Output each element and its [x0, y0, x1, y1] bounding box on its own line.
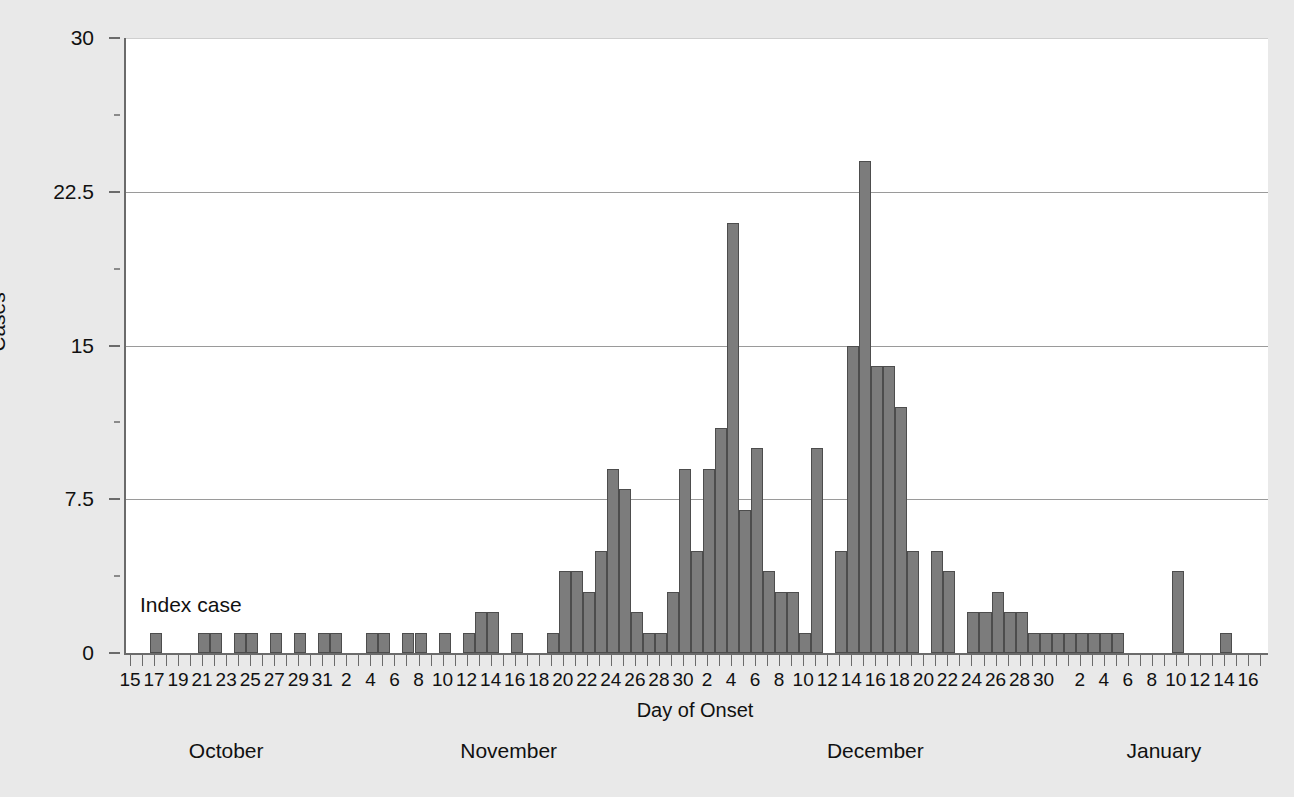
- x-tick-mark: [1032, 655, 1033, 666]
- bar: [1040, 633, 1052, 654]
- x-tick-label: 12: [1189, 669, 1210, 691]
- x-tick-label: 14: [841, 669, 862, 691]
- bar: [739, 510, 751, 654]
- bar: [871, 366, 883, 653]
- x-tick-label: 16: [504, 669, 525, 691]
- x-tick-label: 30: [1033, 669, 1054, 691]
- x-tick-mark: [382, 655, 383, 666]
- x-tick-mark: [731, 655, 732, 666]
- bar: [835, 551, 847, 654]
- x-tick-label: 10: [432, 669, 453, 691]
- x-tick-mark: [358, 655, 359, 666]
- x-tick-label: 6: [750, 669, 761, 691]
- y-tick-mark: [109, 652, 120, 654]
- bar: [571, 571, 583, 653]
- bar: [895, 407, 907, 653]
- x-tick-mark: [298, 655, 299, 666]
- x-tick-label: 22: [937, 669, 958, 691]
- y-tick-mark: [109, 345, 120, 347]
- y-tick-minor-mark: [114, 114, 120, 116]
- x-tick-label: 18: [889, 669, 910, 691]
- month-label: November: [460, 739, 557, 763]
- x-tick-label: 16: [865, 669, 886, 691]
- bar: [378, 633, 390, 654]
- x-tick-mark: [875, 655, 876, 666]
- x-tick-mark: [1176, 655, 1177, 666]
- x-tick-mark: [599, 655, 600, 666]
- x-tick-mark: [322, 655, 323, 666]
- x-tick-mark: [1092, 655, 1093, 666]
- x-tick-mark: [887, 655, 888, 666]
- x-tick-mark: [370, 655, 371, 666]
- bar: [487, 612, 499, 653]
- epidemic-curve-figure: 07.51522.530 Cases Index case Day of Ons…: [0, 0, 1294, 797]
- x-tick-label: 24: [961, 669, 982, 691]
- bar: [715, 428, 727, 654]
- bar: [294, 633, 306, 654]
- bar: [907, 551, 919, 654]
- x-tick-mark: [1212, 655, 1213, 666]
- y-tick-minor-mark: [114, 575, 120, 577]
- x-tick-label: 8: [1147, 669, 1158, 691]
- x-tick-mark: [334, 655, 335, 666]
- x-tick-mark: [455, 655, 456, 666]
- x-tick-mark: [1104, 655, 1105, 666]
- x-tick-label: 20: [913, 669, 934, 691]
- x-tick-label: 18: [528, 669, 549, 691]
- x-tick-label: 4: [726, 669, 737, 691]
- x-tick-mark: [767, 655, 768, 666]
- bar: [234, 633, 246, 654]
- x-tick-label: 24: [600, 669, 621, 691]
- x-tick-mark: [394, 655, 395, 666]
- y-axis: 07.51522.530: [0, 0, 124, 700]
- bar: [439, 633, 451, 654]
- bar: [967, 612, 979, 653]
- x-tick-mark: [1128, 655, 1129, 666]
- bar: [667, 592, 679, 654]
- x-tick-label: 31: [312, 669, 333, 691]
- x-axis-title: Day of Onset: [124, 699, 1266, 722]
- x-tick-mark: [346, 655, 347, 666]
- x-tick-mark: [623, 655, 624, 666]
- x-tick-mark: [984, 655, 985, 666]
- bar: [811, 448, 823, 653]
- x-tick-label: 8: [413, 669, 424, 691]
- x-tick-mark: [1260, 655, 1261, 666]
- x-tick-mark: [1008, 655, 1009, 666]
- x-tick-label: 15: [119, 669, 140, 691]
- bar: [463, 633, 475, 654]
- x-tick-mark: [695, 655, 696, 666]
- y-axis-title: Cases: [0, 292, 10, 352]
- y-tick-label: 15: [71, 334, 94, 358]
- x-tick-mark: [779, 655, 780, 666]
- x-tick-mark: [827, 655, 828, 666]
- bar: [475, 612, 487, 653]
- bar: [210, 633, 222, 654]
- bar-series: [126, 38, 1268, 653]
- x-tick-label: 12: [817, 669, 838, 691]
- x-tick-mark: [226, 655, 227, 666]
- x-tick-mark: [791, 655, 792, 666]
- x-tick-label: 25: [240, 669, 261, 691]
- x-tick-mark: [1152, 655, 1153, 666]
- x-tick-mark: [527, 655, 528, 666]
- bar: [1028, 633, 1040, 654]
- x-tick-label: 19: [168, 669, 189, 691]
- bar: [1100, 633, 1112, 654]
- x-tick-mark: [755, 655, 756, 666]
- bar: [931, 551, 943, 654]
- bar: [547, 633, 559, 654]
- x-tick-mark: [250, 655, 251, 666]
- x-tick-label: 29: [288, 669, 309, 691]
- x-tick-mark: [166, 655, 167, 666]
- x-tick-mark: [1200, 655, 1201, 666]
- bar: [511, 633, 523, 654]
- x-tick-mark: [202, 655, 203, 666]
- x-tick-mark: [214, 655, 215, 666]
- x-tick-mark: [1116, 655, 1117, 666]
- x-tick-mark: [1224, 655, 1225, 666]
- x-tick-label: 23: [216, 669, 237, 691]
- x-tick-mark: [1044, 655, 1045, 666]
- bar: [583, 592, 595, 654]
- x-tick-label: 2: [702, 669, 713, 691]
